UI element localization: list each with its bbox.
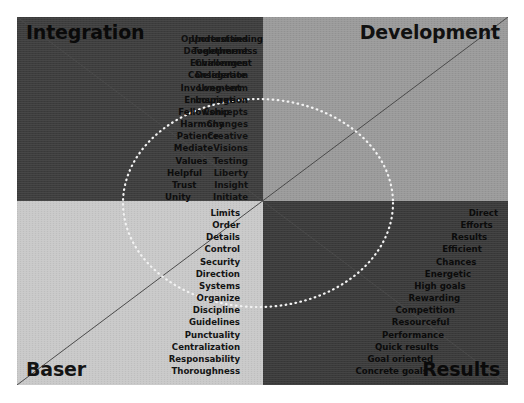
keyword-item: Direction bbox=[83, 268, 240, 280]
keyword-item: Competition bbox=[355, 304, 454, 316]
keyword-item: Responsability bbox=[122, 353, 240, 365]
keyword-item: Direct bbox=[355, 207, 498, 219]
keyword-item: Thoroughness bbox=[128, 365, 240, 377]
keyword-item: Development bbox=[43, 45, 248, 57]
keyword-list-baser: LimitsOrderDetailsControlSecurityDirecti… bbox=[55, 207, 240, 377]
keyword-item: Guidelines bbox=[105, 316, 240, 328]
keyword-item: Initiate bbox=[107, 191, 248, 203]
keyword-item: Visions bbox=[86, 142, 248, 154]
keyword-item: Liberty bbox=[96, 167, 248, 179]
keyword-item: Testing bbox=[91, 155, 248, 167]
keyword-item: Rewarding bbox=[355, 292, 460, 304]
keyword-item: Changes bbox=[75, 118, 248, 130]
keyword-item: Resourceful bbox=[355, 316, 449, 328]
keyword-list-results: DirectEffortsResultsEfficientChancesEner… bbox=[355, 207, 498, 377]
keyword-item: Centralization bbox=[117, 341, 240, 353]
keyword-item: Concrete goals bbox=[355, 365, 427, 377]
keyword-item: High goals bbox=[355, 280, 465, 292]
keyword-item: Order bbox=[61, 219, 240, 231]
keyword-item: Long-term bbox=[59, 82, 248, 94]
keyword-item: Control bbox=[72, 243, 240, 255]
keyword-item: Goal oriented bbox=[355, 353, 433, 365]
keyword-item: Systems bbox=[89, 280, 240, 292]
keyword-item: Creative bbox=[80, 130, 248, 142]
keyword-item: Details bbox=[66, 231, 240, 243]
keyword-item: Results bbox=[355, 231, 487, 243]
keyword-item: Energetic bbox=[355, 268, 471, 280]
keyword-item: Limits bbox=[55, 207, 240, 219]
quadrant-board: Integration Development Baser Results Un… bbox=[17, 17, 508, 385]
keyword-item: Challenges bbox=[49, 57, 248, 69]
keyword-item: Insight bbox=[102, 179, 248, 191]
keyword-item: Organize bbox=[94, 292, 240, 304]
keyword-item: Discipline bbox=[100, 304, 240, 316]
keyword-item: Opportunities bbox=[38, 33, 248, 45]
keyword-item: Punctuality bbox=[111, 329, 240, 341]
quadrant-label-development: Development bbox=[360, 21, 500, 43]
keyword-list-development: OpportunitiesDevelopmentChallengesDelega… bbox=[38, 33, 248, 203]
keyword-item: Inspiration bbox=[65, 94, 249, 106]
keyword-item: Security bbox=[77, 256, 240, 268]
keyword-item: Quick results bbox=[355, 341, 438, 353]
keyword-item: Efficient bbox=[355, 243, 481, 255]
keyword-item: Concepts bbox=[70, 106, 248, 118]
keyword-item: Efforts bbox=[355, 219, 492, 231]
keyword-item: Delegation bbox=[54, 69, 248, 81]
keyword-item: Performance bbox=[355, 329, 444, 341]
keyword-item: Chances bbox=[355, 256, 476, 268]
